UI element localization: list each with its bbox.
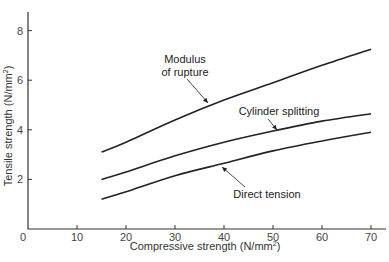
x-tick-label: 70 (365, 231, 377, 243)
annotation-modulus-of-rupture: Modulus (164, 53, 206, 65)
y-tick-label: 2 (17, 173, 23, 185)
axes (28, 12, 386, 229)
x-tick-label: 60 (316, 231, 328, 243)
x-tick-label: 10 (71, 231, 83, 243)
y-tick-label: 8 (17, 25, 23, 37)
x-axis-label: Compressive strength (N/mm2) (130, 240, 281, 252)
y-axis-ticks: 2468 (17, 25, 32, 186)
annotation-cylinder-splitting: Cylinder splitting (239, 105, 320, 117)
y-tick-label: 6 (17, 74, 23, 86)
series-cylinder-splitting (102, 114, 372, 180)
series-modulus-of-rupture (102, 49, 372, 152)
annotation-direct-tension: Direct tension (233, 188, 300, 200)
axis-lines (28, 12, 386, 229)
y-axis-label: Tensile strength (N/mm2) (2, 66, 14, 187)
tensile-vs-compressive-chart: 010203040506070 2468 Modulusof ruptureCy… (0, 0, 389, 262)
annotation-modulus-of-rupture: of rupture (161, 66, 208, 78)
data-series (102, 49, 372, 199)
y-tick-label: 4 (17, 124, 23, 136)
x-tick-label: 0 (20, 231, 26, 243)
